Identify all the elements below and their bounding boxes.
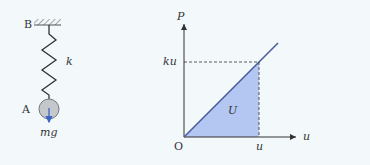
origin-label: O — [174, 140, 183, 153]
figure: B k A mg P u O ku u U — [0, 0, 370, 165]
x-axis-label: u — [303, 130, 310, 143]
spring-mass-diagram: B k A mg — [21, 18, 73, 139]
load-displacement-graph: P u O ku u U — [163, 10, 310, 153]
support-label: B — [24, 18, 32, 31]
spring-constant-label: k — [66, 55, 73, 68]
ceiling-support — [34, 19, 61, 25]
ku-label: ku — [163, 55, 177, 68]
mass-label: A — [21, 103, 31, 116]
y-axis-label: P — [176, 10, 185, 23]
area-label: U — [228, 104, 238, 117]
u-marker-label: u — [256, 140, 263, 153]
spring — [42, 25, 56, 103]
force-label: mg — [40, 126, 57, 139]
